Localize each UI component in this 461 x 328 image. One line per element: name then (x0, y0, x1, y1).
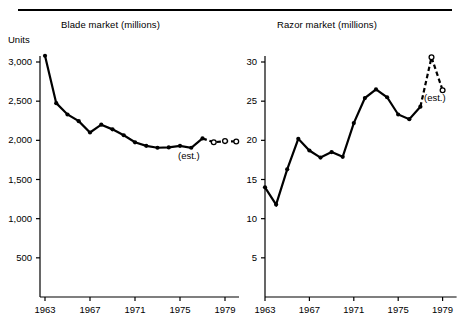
blade-x-tick-label: 1971 (119, 304, 151, 315)
razor-data-point (330, 150, 334, 154)
razor-data-point (396, 112, 400, 116)
razor-data-point (385, 95, 389, 99)
razor-data-point (263, 185, 267, 189)
razor-data-point (318, 155, 322, 159)
blade-y-tick-label: 2,000 (0, 134, 32, 145)
blade-data-point (99, 123, 103, 127)
razor-data-point (352, 121, 356, 125)
razor-data-point (429, 55, 434, 60)
blade-data-point (167, 145, 171, 149)
blade-data-point (110, 127, 114, 131)
blade-x-tick-label: 1963 (29, 304, 61, 315)
blade-x-tick-label: 1979 (209, 304, 241, 315)
razor-y-tick-label: 25 (237, 95, 257, 106)
razor-x-tick-label: 1979 (427, 304, 459, 315)
blade-y-tick-label: 2,500 (0, 95, 32, 106)
razor-data-point (440, 88, 445, 93)
razor-data-point (407, 117, 411, 121)
razor-data-point (363, 96, 367, 100)
blade-data-point (133, 140, 137, 144)
razor-y-tick-label: 30 (237, 56, 257, 67)
blade-y-tick-label: 3,000 (0, 56, 32, 67)
razor-data-point (307, 148, 311, 152)
blade-data-point (122, 133, 126, 137)
blade-y-tick-label: 1,500 (0, 174, 32, 185)
razor-x-tick-label: 1963 (249, 304, 281, 315)
blade-data-point (211, 140, 216, 145)
razor-y-tick-label: 10 (237, 213, 257, 224)
blade-y-tick-label: 1,000 (0, 213, 32, 224)
figure-canvas: Blade market (millions) Razor market (mi… (0, 0, 461, 328)
blade-data-point (178, 144, 182, 148)
razor-series-line (420, 57, 442, 106)
razor-series-line (265, 89, 420, 204)
razor-x-tick-label: 1967 (293, 304, 325, 315)
blade-series-line (203, 138, 237, 142)
blade-x-tick-label: 1975 (164, 304, 196, 315)
razor-x-tick-label: 1971 (338, 304, 370, 315)
razor-x-tick-label: 1975 (382, 304, 414, 315)
razor-data-point (341, 155, 345, 159)
blade-data-point (43, 54, 47, 58)
razor-y-tick-label: 15 (237, 174, 257, 185)
blade-data-point (155, 146, 159, 150)
blade-data-point (144, 144, 148, 148)
blade-x-tick-label: 1967 (74, 304, 106, 315)
blade-data-point (189, 146, 193, 150)
blade-data-point (54, 101, 58, 105)
razor-data-point (285, 167, 289, 171)
razor-data-point (296, 137, 300, 141)
charts-svg (0, 0, 461, 328)
razor-data-point (274, 202, 278, 206)
blade-y-tick-label: 500 (0, 252, 32, 263)
blade-data-point (77, 119, 81, 123)
razor-y-tick-label: 20 (237, 134, 257, 145)
blade-data-point (88, 130, 92, 134)
blade-data-point (223, 139, 228, 144)
razor-data-point (374, 87, 378, 91)
blade-data-point (65, 112, 69, 116)
razor-y-tick-label: 5 (237, 252, 257, 263)
